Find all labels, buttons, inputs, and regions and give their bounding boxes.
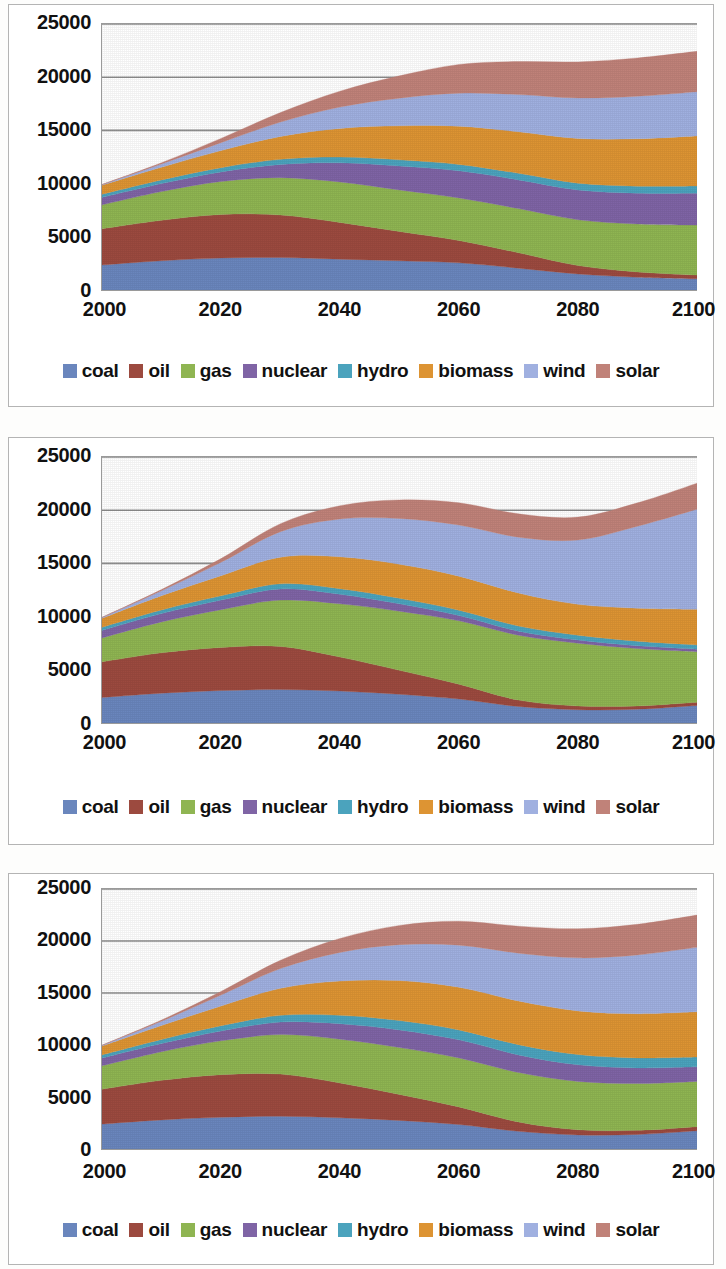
y-axis-tick-0: 0 [80, 1138, 91, 1161]
legend-label-oil: oil [148, 796, 169, 818]
legend-item-oil[interactable]: oil [129, 796, 169, 818]
legend-item-gas[interactable]: gas [181, 796, 232, 818]
legend-swatch-biomass-icon [419, 1223, 433, 1237]
y-axis-tick-25000: 25000 [37, 876, 91, 899]
legend-item-hydro[interactable]: hydro [338, 1219, 408, 1241]
charts-page: 0500010000150002000025000 20002020204020… [0, 0, 726, 1269]
x-axis-tick-2020: 2020 [199, 731, 242, 754]
legend-label-solar: solar [615, 1219, 659, 1241]
legend-swatch-wind-icon [524, 364, 538, 378]
legend-item-biomass[interactable]: biomass [419, 1219, 513, 1241]
x-axis-2: 200020202040206020802100 [101, 731, 697, 757]
stacked-area-plot-2 [102, 457, 697, 723]
x-axis-3: 200020202040206020802100 [101, 1160, 697, 1186]
y-axis-tick-10000: 10000 [37, 1033, 91, 1056]
chart-card-3: 0500010000150002000025000 20002020204020… [8, 873, 714, 1265]
y-axis-tick-10000: 10000 [37, 605, 91, 628]
legend-swatch-gas-icon [181, 1223, 195, 1237]
x-axis-tick-2040: 2040 [318, 298, 361, 321]
x-axis-tick-2020: 2020 [199, 298, 242, 321]
y-axis-3: 0500010000150002000025000 [9, 888, 97, 1150]
legend-item-coal[interactable]: coal [63, 796, 119, 818]
legend-item-oil[interactable]: oil [129, 360, 169, 382]
legend-label-coal: coal [82, 360, 119, 382]
legend-label-nuclear: nuclear [262, 796, 328, 818]
legend-swatch-biomass-icon [419, 800, 433, 814]
legend-label-solar: solar [615, 360, 659, 382]
legend-item-nuclear[interactable]: nuclear [243, 796, 328, 818]
legend-1: coaloilgasnuclearhydrobiomasswindsolar [9, 360, 713, 382]
x-axis-tick-2080: 2080 [556, 298, 599, 321]
legend-label-nuclear: nuclear [262, 360, 328, 382]
legend-swatch-solar-icon [596, 800, 610, 814]
legend-item-solar[interactable]: solar [596, 360, 659, 382]
legend-label-gas: gas [200, 1219, 232, 1241]
legend-item-biomass[interactable]: biomass [419, 796, 513, 818]
legend-label-biomass: biomass [438, 796, 513, 818]
legend-label-wind: wind [543, 796, 585, 818]
legend-swatch-hydro-icon [338, 364, 352, 378]
legend-item-hydro[interactable]: hydro [338, 360, 408, 382]
chart-card-1: 0500010000150002000025000 20002020204020… [8, 4, 714, 407]
x-axis-tick-2100: 2100 [672, 731, 715, 754]
x-axis-tick-2060: 2060 [437, 1160, 480, 1183]
legend-label-coal: coal [82, 1219, 119, 1241]
y-axis-tick-5000: 5000 [48, 1086, 91, 1109]
x-axis-tick-2000: 2000 [83, 298, 126, 321]
legend-swatch-gas-icon [181, 800, 195, 814]
legend-item-biomass[interactable]: biomass [419, 360, 513, 382]
legend-swatch-coal-icon [63, 1223, 77, 1237]
legend-item-nuclear[interactable]: nuclear [243, 360, 328, 382]
legend-item-coal[interactable]: coal [63, 1219, 119, 1241]
y-axis-tick-10000: 10000 [37, 172, 91, 195]
legend-label-wind: wind [543, 1219, 585, 1241]
legend-swatch-solar-icon [596, 364, 610, 378]
y-axis-tick-15000: 15000 [37, 981, 91, 1004]
legend-swatch-solar-icon [596, 1223, 610, 1237]
legend-item-oil[interactable]: oil [129, 1219, 169, 1241]
legend-item-wind[interactable]: wind [524, 360, 585, 382]
x-axis-tick-2060: 2060 [437, 731, 480, 754]
legend-item-wind[interactable]: wind [524, 796, 585, 818]
legend-label-gas: gas [200, 360, 232, 382]
legend-item-coal[interactable]: coal [63, 360, 119, 382]
legend-label-hydro: hydro [357, 360, 408, 382]
legend-item-gas[interactable]: gas [181, 1219, 232, 1241]
plot-area-3 [101, 888, 697, 1150]
stacked-area-plot-3 [102, 889, 697, 1149]
legend-item-gas[interactable]: gas [181, 360, 232, 382]
legend-label-oil: oil [148, 1219, 169, 1241]
x-axis-1: 200020202040206020802100 [101, 298, 697, 324]
legend-item-solar[interactable]: solar [596, 796, 659, 818]
x-axis-tick-2040: 2040 [318, 1160, 361, 1183]
plot-area-2 [101, 456, 697, 724]
legend-swatch-oil-icon [129, 800, 143, 814]
legend-label-wind: wind [543, 360, 585, 382]
legend-label-coal: coal [82, 796, 119, 818]
legend-item-nuclear[interactable]: nuclear [243, 1219, 328, 1241]
legend-item-wind[interactable]: wind [524, 1219, 585, 1241]
x-axis-tick-2000: 2000 [83, 1160, 126, 1183]
x-axis-tick-2060: 2060 [437, 298, 480, 321]
y-axis-tick-15000: 15000 [37, 118, 91, 141]
x-axis-tick-2040: 2040 [318, 731, 361, 754]
legend-3: coaloilgasnuclearhydrobiomasswindsolar [9, 1219, 713, 1241]
y-axis-tick-25000: 25000 [37, 11, 91, 34]
x-axis-tick-2100: 2100 [672, 1160, 715, 1183]
legend-label-oil: oil [148, 360, 169, 382]
legend-swatch-gas-icon [181, 364, 195, 378]
chart-card-2: 0500010000150002000025000 20002020204020… [8, 437, 714, 845]
legend-label-solar: solar [615, 796, 659, 818]
x-axis-tick-2100: 2100 [672, 298, 715, 321]
y-axis-tick-25000: 25000 [37, 444, 91, 467]
legend-item-solar[interactable]: solar [596, 1219, 659, 1241]
x-axis-tick-2020: 2020 [199, 1160, 242, 1183]
stacked-area-plot-1 [102, 24, 697, 290]
legend-swatch-nuclear-icon [243, 1223, 257, 1237]
legend-swatch-nuclear-icon [243, 364, 257, 378]
y-axis-tick-5000: 5000 [48, 658, 91, 681]
legend-swatch-wind-icon [524, 1223, 538, 1237]
x-axis-tick-2080: 2080 [556, 1160, 599, 1183]
legend-label-hydro: hydro [357, 1219, 408, 1241]
legend-item-hydro[interactable]: hydro [338, 796, 408, 818]
